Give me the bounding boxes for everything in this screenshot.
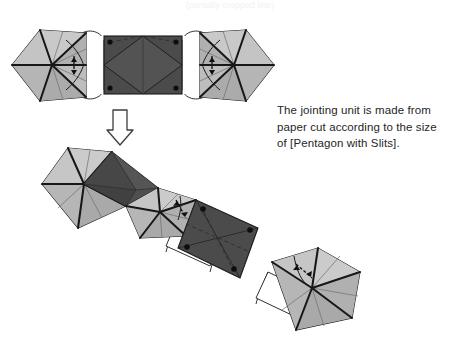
caption-line-1: The jointing unit is made from	[277, 102, 457, 119]
pentagon-unit-left	[12, 30, 86, 101]
caption-line-2: paper cut according to the size	[277, 119, 457, 136]
caption: The jointing unit is made from paper cut…	[277, 102, 457, 152]
down-arrow	[107, 110, 133, 145]
jointing-unit-center	[104, 36, 182, 94]
origami-instruction-figure	[0, 0, 460, 344]
bottom-figure-assembled-chain	[42, 148, 360, 330]
chain-pentagon-3	[272, 248, 360, 330]
diagram-page: (partially cropped line)	[0, 0, 460, 344]
pentagon-unit-right	[200, 30, 274, 101]
top-figure-exploded-row	[12, 30, 274, 101]
caption-line-3: of [Pentagon with Slits].	[277, 135, 457, 152]
